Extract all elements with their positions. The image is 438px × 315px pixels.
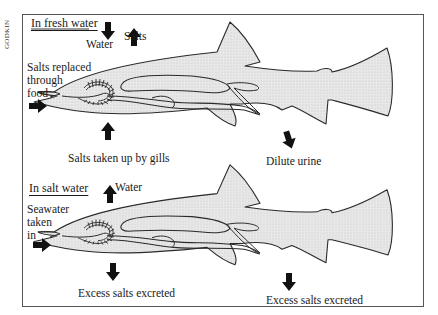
salts-replaced-label-line3: food	[27, 87, 48, 99]
kidney-excrete-label: Excess salts excreted	[266, 294, 363, 306]
seawater-label-line1: Seawater	[27, 203, 69, 215]
gill-excrete-label: Excess salts excreted	[78, 287, 175, 299]
salts-label: Salts	[124, 30, 146, 42]
seawater-label-line2: taken	[27, 216, 52, 228]
gills-label: Salts taken up by gills	[68, 152, 170, 164]
seawater-label-line3: in	[27, 229, 36, 241]
dilute-urine-label: Dilute urine	[266, 155, 321, 167]
fresh-water-heading: In fresh water	[31, 17, 98, 29]
water-label: Water	[86, 38, 113, 50]
fish-diagram	[0, 0, 438, 315]
fish-salt-water	[34, 165, 392, 265]
salt-water-heading: In salt water	[29, 182, 88, 194]
salts-replaced-label-line1: Salts replaced	[27, 61, 91, 73]
water-out-label: Water	[115, 181, 142, 193]
gills-in-arrow	[101, 122, 115, 140]
gill-salts-out-arrow	[106, 263, 120, 281]
urine-out-arrow	[280, 129, 299, 150]
salts-replaced-label-line2: through	[27, 74, 63, 86]
kidney-salts-out-arrow	[282, 273, 296, 291]
